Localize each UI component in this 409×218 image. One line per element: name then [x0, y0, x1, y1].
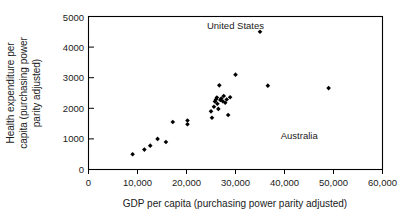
x-tick-label: 60,000 — [368, 177, 397, 188]
data-point — [210, 115, 215, 120]
data-point — [209, 109, 214, 114]
data-point — [130, 152, 135, 157]
y-axis-title-line: Health expenditure per — [5, 42, 16, 144]
y-tick-label: 2000 — [63, 103, 84, 114]
scatter-chart-figure: 0 1000 2000 3000 4000 5000 0 10,000 20,0… — [0, 0, 409, 218]
data-point — [142, 147, 147, 152]
y-tick-label: 0 — [79, 164, 84, 175]
x-tick-label: 40,000 — [270, 177, 299, 188]
data-point — [226, 113, 231, 118]
y-axis-title: Health expenditure per capita (purchasin… — [5, 36, 42, 148]
data-point — [228, 95, 233, 100]
data-point — [326, 86, 331, 91]
data-point — [155, 137, 160, 142]
data-point — [170, 120, 175, 125]
data-point — [164, 140, 169, 145]
y-tick-label: 5000 — [63, 12, 84, 23]
x-tick-label: 30,000 — [221, 177, 250, 188]
x-tick-label: 0 — [86, 177, 91, 188]
x-tick-label: 20,000 — [172, 177, 201, 188]
x-tick-labels: 0 10,000 20,000 30,000 40,000 50,000 60,… — [86, 177, 397, 188]
y-axis-ticks — [89, 17, 95, 170]
data-point — [216, 107, 221, 112]
annotations-layer: United StatesAustralia — [207, 20, 318, 141]
y-tick-label: 4000 — [63, 42, 84, 53]
data-point — [148, 143, 153, 148]
chart-annotation: United States — [207, 20, 264, 31]
y-axis-title-line: capita (purchasing power — [18, 36, 29, 148]
plot-frame — [89, 17, 383, 170]
chart-annotation: Australia — [281, 130, 319, 141]
y-tick-labels: 0 1000 2000 3000 4000 5000 — [63, 12, 84, 176]
x-axis-title: GDP per capita (purchasing power parity … — [123, 198, 347, 209]
data-point — [212, 104, 217, 109]
y-tick-label: 1000 — [63, 133, 84, 144]
x-axis-ticks — [89, 170, 383, 175]
chart-svg: 0 1000 2000 3000 4000 5000 0 10,000 20,0… — [0, 0, 409, 218]
data-point — [217, 83, 222, 88]
data-point — [266, 83, 271, 88]
y-tick-label: 3000 — [63, 72, 84, 83]
x-tick-label: 10,000 — [123, 177, 152, 188]
data-point — [233, 72, 238, 77]
x-tick-label: 50,000 — [319, 177, 348, 188]
y-axis-title-line: parity adjusted) — [31, 59, 42, 127]
data-point — [185, 122, 190, 127]
